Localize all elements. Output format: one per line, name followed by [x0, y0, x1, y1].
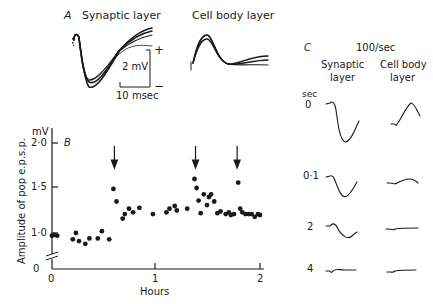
panel-c-traces: [0, 0, 433, 304]
